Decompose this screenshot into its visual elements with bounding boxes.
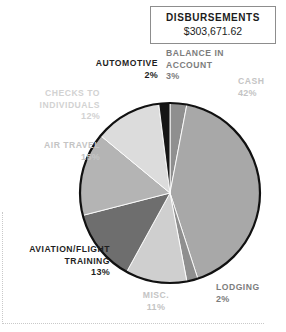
slice-label-automotive: AUTOMOTIVE 2% — [46, 58, 158, 81]
slice-label-aviation-name: AVIATION/FLIGHT TRAINING — [2, 244, 110, 267]
slice-label-balance-percent: 3% — [166, 71, 228, 83]
slice-label-lodging-percent: 2% — [216, 294, 280, 306]
slice-label-checks-percent: 12% — [14, 111, 100, 123]
pie-chart-figure: DISBURSEMENTS $303,671.62 AUTOMOTIVE 2% … — [0, 0, 286, 332]
slice-label-misc: MISC. 11% — [130, 290, 182, 313]
slice-label-checks-name: CHECKS TO INDIVIDUALS — [14, 88, 100, 111]
slice-label-automotive-name: AUTOMOTIVE — [46, 58, 158, 70]
slice-label-misc-percent: 11% — [130, 302, 182, 314]
slice-label-checks-to-individuals: CHECKS TO INDIVIDUALS 12% — [14, 88, 100, 123]
slice-label-automotive-percent: 2% — [46, 70, 158, 82]
slice-label-aviation-percent: 13% — [2, 267, 110, 279]
slice-label-lodging: LODGING 2% — [216, 282, 280, 305]
slice-label-cash: CASH 42% — [238, 76, 282, 99]
slice-label-aviation-flight-training: AVIATION/FLIGHT TRAINING 13% — [2, 244, 110, 279]
slice-label-balance-in-account: BALANCE IN ACCOUNT 3% — [166, 48, 228, 83]
slice-label-balance-name: BALANCE IN ACCOUNT — [166, 48, 228, 71]
slice-label-cash-percent: 42% — [238, 88, 282, 100]
slice-label-cash-name: CASH — [238, 76, 282, 88]
slice-label-air-travel-percent: 15% — [14, 152, 100, 164]
slice-label-air-travel: AIR TRAVEL 15% — [14, 140, 100, 163]
slice-label-lodging-name: LODGING — [216, 282, 280, 294]
slice-label-air-travel-name: AIR TRAVEL — [14, 140, 100, 152]
slice-label-misc-name: MISC. — [130, 290, 182, 302]
